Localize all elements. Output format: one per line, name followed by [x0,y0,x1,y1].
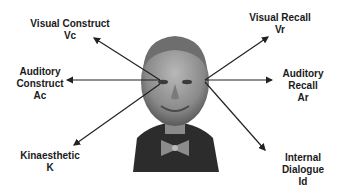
label-auditory-recall: Auditory Recall Ar [268,68,338,104]
label-kinaesthetic: Kinaesthetic K [10,150,90,174]
arrow-visual-recall [205,37,268,80]
label-visual-construct: Visual Construct Vc [20,18,120,42]
arrow-visual-construct [94,38,160,80]
label-visual-recall: Visual Recall Vr [240,12,320,36]
label-internal-dialogue: Internal Dialogue Id [268,152,338,188]
arrow-kinaesthetic [74,84,160,145]
arrow-internal-dialogue [205,82,265,150]
label-auditory-construct: Auditory Construct Ac [10,66,70,102]
